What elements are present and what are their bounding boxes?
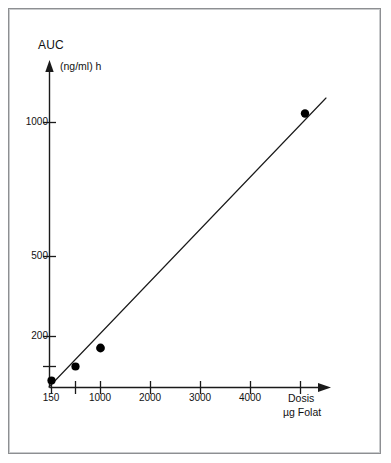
data-point-2 (71, 362, 79, 370)
figure-container: AUC (ng/ml) h Dosis µg Folat 1000 500 20… (0, 0, 391, 463)
data-point-1 (47, 376, 55, 384)
data-point-group (47, 109, 309, 384)
y-axis-group (43, 60, 56, 388)
regression-line (49, 98, 326, 387)
data-point-4 (301, 109, 309, 117)
x-axis-right-arrow-icon (318, 383, 331, 392)
x-axis-group (50, 381, 332, 394)
plot-area (0, 0, 391, 463)
y-axis-up-arrow-icon (45, 60, 53, 72)
data-point-3 (96, 344, 105, 353)
